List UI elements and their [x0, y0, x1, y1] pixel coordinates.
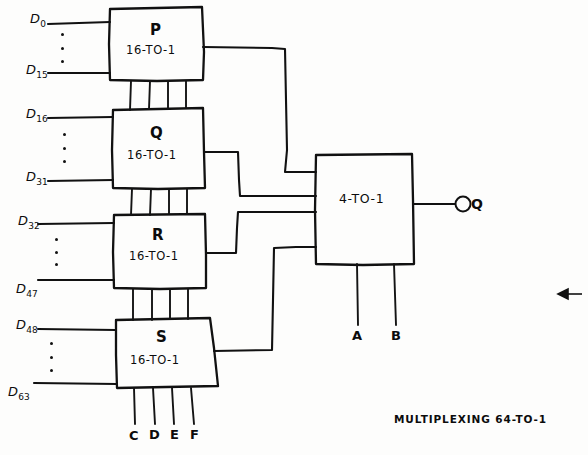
data-input-line-d48: [38, 329, 116, 330]
select-label-f: F: [190, 428, 199, 441]
select-bus-segment-p-q-c: [130, 81, 131, 110]
ellipsis-dots-p: [61, 33, 64, 63]
select-line-d: [153, 388, 155, 424]
data-input-line-d31: [48, 180, 113, 181]
mux-block-p-label: P: [150, 23, 161, 38]
figure-caption: MULTIPLEXING 64-TO-1: [394, 414, 547, 425]
data-input-line-d32: [38, 223, 114, 224]
mux-block-r-label: R: [152, 228, 164, 243]
data-input-line-d63: [34, 383, 117, 384]
diagram-sketch-layer: [0, 0, 588, 455]
select-label-e: E: [170, 428, 179, 441]
output-label-q: Q: [471, 197, 483, 211]
mux-block-4to1-outline: [315, 154, 414, 265]
select-bus-segment-q-r-c: [131, 189, 132, 215]
wire-q-out-to-mux4-in1: [205, 152, 316, 196]
mux-block-4to1-label: 4-TO-1: [339, 193, 384, 206]
ellipsis-dots-q: [63, 133, 66, 163]
select-line-a: [357, 264, 358, 325]
left-arrow-icon: [558, 289, 582, 299]
output-terminal-q-circle: [456, 197, 471, 212]
ellipsis-dots-r: [55, 238, 58, 266]
select-bus-segment-q-r-d: [150, 189, 151, 215]
mux-block-p-sublabel: 16-TO-1: [126, 45, 176, 57]
select-label-a: A: [352, 329, 363, 342]
data-label-d31: D31: [26, 170, 48, 187]
circuit-diagram-canvas: D0 D15 D16 D31 D32 D47 D48 D63 P 16-TO-1…: [0, 0, 588, 455]
mux-block-s-sublabel: 16-TO-1: [130, 355, 180, 367]
ellipsis-dots-s: [50, 342, 53, 372]
data-label-d16: D16: [26, 107, 48, 124]
data-label-d63: D63: [8, 385, 30, 402]
data-input-line-d0: [48, 22, 110, 24]
data-label-d15: D15: [26, 63, 48, 80]
select-label-d: D: [149, 428, 160, 441]
select-line-c: [134, 388, 135, 424]
wire-s-out-to-mux4-in3: [214, 247, 316, 351]
mux-block-s-label: S: [156, 330, 167, 345]
data-label-d48: D48: [16, 318, 38, 335]
mux-block-r-sublabel: 16-TO-1: [129, 251, 179, 263]
mux-block-q-label: Q: [150, 126, 163, 141]
select-bus-segment-p-q-d: [149, 81, 150, 109]
mux-block-q-sublabel: 16-TO-1: [127, 150, 177, 162]
select-line-e: [172, 388, 174, 424]
data-label-d32: D32: [18, 214, 40, 231]
wire-p-out-to-mux4-in0: [203, 47, 316, 172]
data-label-d47: D47: [16, 282, 38, 299]
data-input-line-d16: [48, 117, 113, 118]
select-line-f: [191, 388, 194, 424]
select-line-b: [394, 264, 396, 325]
select-label-b: B: [391, 329, 401, 342]
data-label-d0: D0: [30, 12, 46, 29]
select-label-c: C: [129, 429, 139, 442]
